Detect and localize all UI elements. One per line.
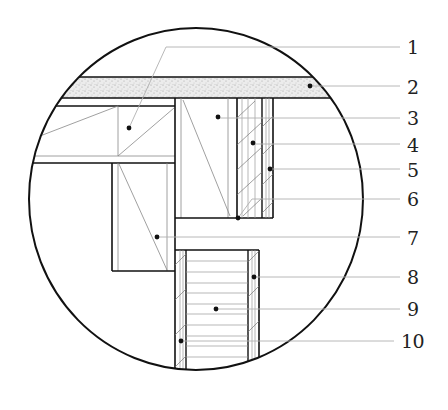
dot-5 [268,167,273,172]
dot-6 [236,216,241,221]
dot-4 [251,141,256,146]
dot-10 [179,339,184,344]
dot-1 [127,126,132,131]
detail-content [20,77,380,380]
dot-3 [216,115,221,120]
stud-block [175,98,273,218]
dot-8 [252,275,257,280]
dot-9 [214,307,219,312]
header-block [112,163,175,371]
detail-drawing [0,0,448,410]
dot-7 [155,235,160,240]
lower-wall [175,250,259,380]
floor-joist [20,106,175,163]
dot-2 [308,84,313,89]
wall-layers [237,98,273,218]
callout-dots [127,84,313,344]
floor-slab [20,77,380,98]
